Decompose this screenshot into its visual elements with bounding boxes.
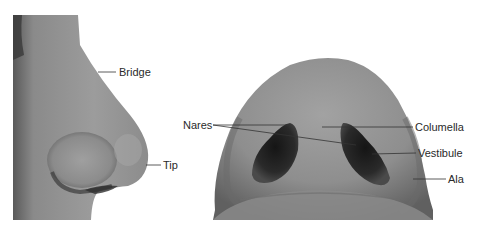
- lateral-view-photo: [13, 15, 148, 220]
- label-ala: Ala: [448, 173, 464, 185]
- nose-anatomy-figure: Bridge Tip Nares Columella Vestibule Ala: [0, 0, 479, 232]
- inferior-view-photo: [213, 58, 433, 220]
- label-tip: Tip: [163, 159, 178, 171]
- nose-illustration: [0, 0, 479, 232]
- label-columella: Columella: [415, 121, 464, 133]
- label-vestibule: Vestibule: [418, 147, 463, 159]
- label-bridge: Bridge: [119, 66, 151, 78]
- label-nares: Nares: [183, 119, 212, 131]
